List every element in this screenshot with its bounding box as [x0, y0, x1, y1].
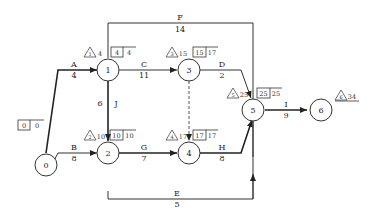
activity-G-label: G — [141, 143, 147, 152]
node-5: 5 — [242, 99, 264, 121]
svg-text:6: 6 — [339, 94, 342, 100]
svg-text:17: 17 — [195, 132, 203, 140]
svg-text:17: 17 — [179, 133, 187, 141]
svg-text:25: 25 — [272, 90, 280, 98]
svg-text:4: 4 — [186, 149, 191, 158]
activity-H: H 8 — [200, 120, 252, 163]
svg-text:25: 25 — [240, 91, 248, 99]
node-0: 0 — [35, 154, 57, 176]
node-0-times: 0 0 — [18, 120, 44, 130]
activity-C: C 11 — [119, 60, 177, 80]
svg-text:1: 1 — [105, 66, 110, 75]
svg-text:4: 4 — [170, 134, 173, 140]
svg-text:10: 10 — [97, 133, 105, 141]
svg-text:10: 10 — [112, 132, 120, 140]
activity-I-label: I — [284, 100, 287, 109]
activity-J-label: J — [113, 99, 117, 108]
activity-E-duration: 5 — [174, 200, 179, 209]
node-4-times: 4 17 17 17 — [166, 130, 218, 141]
svg-text:25: 25 — [259, 90, 267, 98]
node-2: 2 — [97, 142, 119, 164]
activity-H-duration: 8 — [219, 154, 224, 163]
node-3: 3 — [178, 59, 200, 81]
activity-D-duration: 2 — [219, 71, 224, 80]
activity-H-label: H — [219, 143, 226, 152]
activity-J-duration: 6 — [97, 99, 102, 108]
node-6: 6 — [310, 99, 332, 121]
svg-text:6: 6 — [318, 106, 323, 115]
svg-text:0: 0 — [43, 161, 48, 170]
svg-text:3: 3 — [170, 51, 173, 57]
svg-text:0: 0 — [35, 122, 39, 130]
activity-F-duration: 14 — [175, 25, 185, 34]
activity-G-duration: 7 — [141, 154, 146, 163]
svg-text:1: 1 — [88, 51, 91, 57]
activity-I-duration: 9 — [283, 111, 288, 120]
activity-F-label: F — [177, 13, 183, 22]
svg-text:17: 17 — [208, 132, 216, 140]
svg-text:34: 34 — [348, 93, 356, 101]
node-1: 1 — [97, 59, 119, 81]
svg-text:5: 5 — [250, 106, 255, 115]
svg-text:4: 4 — [98, 50, 102, 58]
svg-text:4: 4 — [115, 49, 119, 57]
node-2-times: 2 10 10 10 — [84, 130, 136, 141]
svg-text:5: 5 — [231, 92, 234, 98]
network-diagram: F 14 E 5 A 4 B 8 6 J C 11 D 2 — [0, 0, 373, 222]
svg-text:15: 15 — [195, 49, 203, 57]
node-3-times: 3 15 15 17 — [166, 47, 218, 58]
svg-text:15: 15 — [179, 50, 187, 58]
activity-I: I 9 — [265, 100, 307, 120]
svg-text:2: 2 — [105, 149, 110, 158]
activity-E-label: E — [174, 189, 180, 198]
activity-C-label: C — [141, 60, 147, 69]
activity-D-label: D — [219, 60, 225, 69]
node-6-times: 6 34 — [335, 90, 359, 101]
node-1-times: 1 4 4 4 — [84, 47, 136, 58]
activity-A-duration: 4 — [71, 71, 76, 80]
svg-text:2: 2 — [88, 134, 91, 140]
svg-text:0: 0 — [22, 122, 26, 130]
svg-text:10: 10 — [125, 132, 133, 140]
node-5-times: 5 25 25 25 — [227, 88, 282, 99]
activity-B-duration: 8 — [71, 154, 76, 163]
activity-A-label: A — [70, 60, 77, 69]
node-4: 4 — [178, 142, 200, 164]
svg-text:17: 17 — [208, 49, 216, 57]
activity-G: G 7 — [119, 143, 177, 163]
activity-C-duration: 11 — [139, 71, 149, 80]
svg-text:4: 4 — [127, 49, 131, 57]
svg-text:3: 3 — [186, 66, 191, 75]
activity-B-label: B — [71, 143, 77, 152]
